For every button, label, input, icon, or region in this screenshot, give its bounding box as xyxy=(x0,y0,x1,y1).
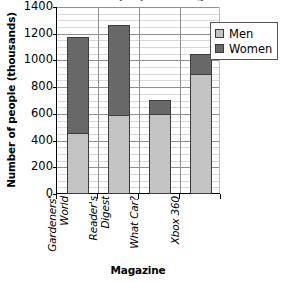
x-category-label-text: Reader's Digest xyxy=(88,196,111,258)
gridline-category-separator xyxy=(139,7,140,193)
bar-segment-women xyxy=(149,100,171,116)
x-category-label-text: Xbox 360 xyxy=(170,196,182,258)
legend-item-men: Men xyxy=(215,26,272,41)
bar-segment-men xyxy=(149,114,171,194)
bar-group xyxy=(108,6,130,193)
plot-area xyxy=(56,7,220,194)
chart-legend: MenWomen xyxy=(210,22,278,60)
bar-segment-women xyxy=(67,37,89,134)
x-category-label: Xbox 360 xyxy=(170,196,230,258)
bar-group xyxy=(149,6,171,193)
bar-segment-women xyxy=(108,25,130,116)
x-category-label-text: Gardeners' World xyxy=(47,196,70,258)
legend-label: Men xyxy=(229,28,253,40)
x-category-label-text: What Car? xyxy=(129,196,141,258)
x-axis-title: Magazine xyxy=(56,264,220,276)
gridline-category-separator xyxy=(98,7,99,193)
gridline-category-separator xyxy=(180,7,181,193)
bar-segment-men xyxy=(108,115,130,194)
y-axis-tick-marks xyxy=(0,7,60,195)
legend-swatch-icon xyxy=(215,29,224,38)
legend-label: Women xyxy=(229,43,272,55)
legend-swatch-icon xyxy=(215,44,224,53)
bar-segment-women xyxy=(190,54,212,75)
legend-item-women: Women xyxy=(215,41,272,56)
bar-segment-men xyxy=(67,133,89,194)
bar-group xyxy=(67,6,89,193)
bar-group xyxy=(190,6,212,193)
chart-title: Number of people reading magazines xyxy=(56,0,220,1)
bar-segment-men xyxy=(190,74,212,194)
stacked-bar-chart: Number of people reading magazines Numbe… xyxy=(0,0,294,282)
